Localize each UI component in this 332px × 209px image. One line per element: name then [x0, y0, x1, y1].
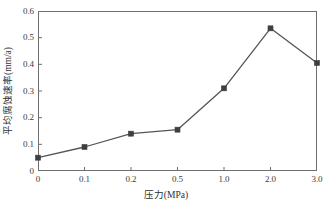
x-tick-label: 1.0	[204, 175, 244, 184]
x-axis-tick-labels: 00.10.20.51.02.03.0	[0, 0, 332, 209]
x-tick-label: 2.0	[251, 175, 291, 184]
chart-figure: 平均腐蚀速率(mm/a) 00.10.20.30.40.50.6 00.10.2…	[0, 0, 332, 209]
x-tick-label: 0.1	[65, 175, 105, 184]
x-axis-title: 压力(MPa)	[0, 190, 332, 200]
x-tick-label: 0.2	[111, 175, 151, 184]
x-tick-label: 3.0	[297, 175, 332, 184]
x-tick-label: 0	[18, 175, 58, 184]
x-tick-label: 0.5	[158, 175, 198, 184]
